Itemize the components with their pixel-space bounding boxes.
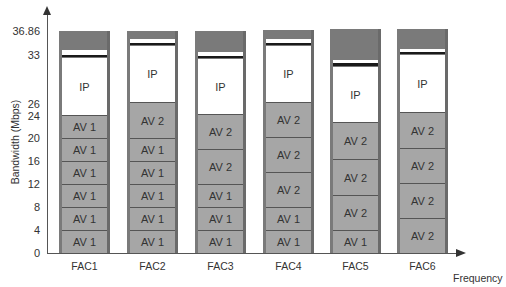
segment-label: AV 1 bbox=[141, 144, 164, 156]
x-tick-label: FAC2 bbox=[123, 260, 183, 272]
bar-fac3: IPAV 2AV 2AV 1AV 1AV 1 bbox=[195, 31, 246, 253]
av-segment: AV 2 bbox=[130, 102, 175, 138]
av-segment: AV 1 bbox=[62, 207, 107, 230]
segment-label: AV 2 bbox=[344, 135, 367, 147]
overhead-segment bbox=[333, 29, 378, 60]
overhead-segment bbox=[266, 30, 311, 39]
segment-label: AV 1 bbox=[209, 190, 232, 202]
av-segment: AV 2 bbox=[400, 183, 445, 218]
av-segment: AV 1 bbox=[62, 161, 107, 184]
x-tick-label: FAC4 bbox=[259, 260, 319, 272]
bar-fac6: IPAV 2AV 2AV 2AV 2 bbox=[397, 29, 448, 253]
av-segment: AV 1 bbox=[62, 230, 107, 253]
segment-label: AV 1 bbox=[344, 236, 367, 248]
x-tick-label: FAC1 bbox=[55, 260, 115, 272]
av-segment: AV 2 bbox=[333, 195, 378, 230]
overhead-segment bbox=[198, 31, 243, 52]
segment-label: AV 2 bbox=[209, 161, 232, 173]
av-segment: AV 2 bbox=[400, 218, 445, 253]
av-segment: AV 2 bbox=[333, 122, 378, 159]
av-segment: AV 1 bbox=[198, 207, 243, 230]
ip-segment: IP bbox=[266, 45, 311, 102]
bar-fac2: IPAV 2AV 1AV 1AV 1AV 1AV 1 bbox=[127, 31, 178, 253]
y-tick-label: 36.86 bbox=[4, 25, 40, 37]
y-tick-label: 26 bbox=[4, 98, 40, 110]
y-axis-line bbox=[47, 12, 48, 254]
x-tick-label: FAC6 bbox=[393, 260, 453, 272]
y-tick-label: 4 bbox=[4, 224, 40, 236]
av-segment: AV 1 bbox=[266, 230, 311, 253]
segment-label: AV 1 bbox=[141, 236, 164, 248]
av-segment: AV 1 bbox=[62, 138, 107, 161]
segment-label: AV 1 bbox=[141, 167, 164, 179]
x-axis-line bbox=[47, 253, 457, 254]
bar-fac1: IPAV 1AV 1AV 1AV 1AV 1AV 1 bbox=[59, 31, 110, 253]
av-segment: AV 2 bbox=[266, 102, 311, 137]
segment-label: AV 1 bbox=[73, 190, 96, 202]
ip-segment: IP bbox=[130, 45, 175, 102]
av-segment: AV 1 bbox=[62, 184, 107, 207]
segment-label: AV 2 bbox=[411, 160, 434, 172]
bar-fac5: IPAV 2AV 2AV 2AV 1 bbox=[330, 29, 381, 253]
av-segment: AV 2 bbox=[266, 137, 311, 172]
segment-label: AV 2 bbox=[411, 230, 434, 242]
av-segment: AV 2 bbox=[266, 172, 311, 207]
av-segment: AV 1 bbox=[130, 230, 175, 253]
av-segment: AV 1 bbox=[130, 138, 175, 161]
segment-label: IP bbox=[79, 81, 89, 93]
overhead-segment bbox=[62, 31, 107, 50]
overhead-segment bbox=[130, 31, 175, 39]
av-segment: AV 2 bbox=[198, 149, 243, 184]
y-axis-arrow-icon bbox=[43, 6, 51, 15]
segment-label: AV 1 bbox=[73, 236, 96, 248]
av-segment: AV 1 bbox=[198, 184, 243, 207]
segment-label: IP bbox=[283, 68, 293, 80]
y-tick-label: 16 bbox=[4, 155, 40, 167]
ip-segment: IP bbox=[198, 58, 243, 114]
av-segment: AV 2 bbox=[400, 112, 445, 148]
av-segment: AV 1 bbox=[130, 184, 175, 207]
segment-label: AV 1 bbox=[141, 190, 164, 202]
segment-label: AV 1 bbox=[141, 213, 164, 225]
segment-label: AV 1 bbox=[73, 167, 96, 179]
av-segment: AV 1 bbox=[130, 207, 175, 230]
bar-fac4: IPAV 2AV 2AV 2AV 1AV 1 bbox=[263, 30, 314, 253]
y-tick-label: 12 bbox=[4, 178, 40, 190]
x-tick-label: FAC3 bbox=[191, 260, 251, 272]
y-tick-label: 20 bbox=[4, 132, 40, 144]
segment-label: IP bbox=[215, 81, 225, 93]
segment-label: AV 2 bbox=[209, 126, 232, 138]
segment-label: AV 2 bbox=[277, 114, 300, 126]
segment-label: AV 1 bbox=[277, 236, 300, 248]
segment-label: AV 1 bbox=[73, 213, 96, 225]
av-segment: AV 1 bbox=[198, 230, 243, 253]
segment-label: AV 2 bbox=[344, 172, 367, 184]
segment-label: AV 2 bbox=[411, 125, 434, 137]
segment-label: AV 2 bbox=[277, 149, 300, 161]
x-tick-label: FAC5 bbox=[326, 260, 386, 272]
x-axis-arrow-icon bbox=[456, 249, 466, 257]
ip-segment: IP bbox=[333, 66, 378, 122]
segment-label: AV 2 bbox=[141, 115, 164, 127]
segment-label: AV 2 bbox=[344, 207, 367, 219]
av-segment: AV 1 bbox=[333, 230, 378, 253]
av-segment: AV 2 bbox=[400, 148, 445, 183]
ip-segment: IP bbox=[62, 57, 107, 115]
segment-label: AV 2 bbox=[277, 184, 300, 196]
y-tick-label: 8 bbox=[4, 201, 40, 213]
segment-label: AV 1 bbox=[73, 144, 96, 156]
av-segment: AV 2 bbox=[198, 114, 243, 149]
segment-label: AV 1 bbox=[209, 213, 232, 225]
segment-label: IP bbox=[417, 78, 427, 90]
overhead-segment bbox=[400, 29, 445, 49]
av-segment: AV 2 bbox=[333, 159, 378, 195]
segment-label: AV 1 bbox=[209, 236, 232, 248]
y-tick-label: 0 bbox=[4, 247, 40, 259]
segment-label: IP bbox=[350, 89, 360, 101]
x-axis-label: Frequency bbox=[453, 272, 503, 284]
segment-label: AV 1 bbox=[73, 121, 96, 133]
av-segment: AV 1 bbox=[266, 207, 311, 230]
segment-label: AV 1 bbox=[277, 213, 300, 225]
av-segment: AV 1 bbox=[130, 161, 175, 184]
segment-label: AV 2 bbox=[411, 195, 434, 207]
